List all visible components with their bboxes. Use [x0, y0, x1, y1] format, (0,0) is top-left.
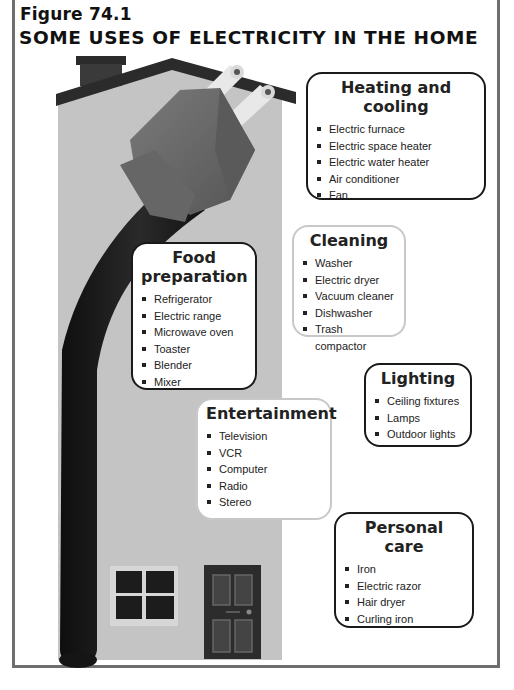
list-item: Hair dryer	[344, 594, 464, 611]
category-list: Ceiling fixtures Lamps Outdoor lights	[374, 393, 462, 443]
list-item: Radio	[206, 478, 322, 495]
list-item: Electric space heater	[316, 138, 476, 155]
list-item: Electric razor	[344, 578, 464, 595]
list-item: Refrigerator	[141, 291, 247, 308]
list-item: Fan	[316, 187, 476, 204]
list-item: Curling iron	[344, 611, 464, 628]
category-box-entertainment: Entertainment Television VCR Computer Ra…	[196, 398, 332, 520]
list-item: Vacuum cleaner	[302, 288, 396, 305]
category-list: Refrigerator Electric range Microwave ov…	[141, 291, 247, 390]
category-title: Heating andcooling	[316, 78, 476, 116]
list-item: Blender	[141, 357, 247, 374]
list-item: Electric water heater	[316, 154, 476, 171]
door-icon	[204, 565, 261, 659]
category-list: Washer Electric dryer Vacuum cleaner Dis…	[302, 255, 396, 354]
list-item: Electric furnace	[316, 121, 476, 138]
category-title: Entertainment	[206, 404, 322, 423]
category-title: Lighting	[374, 369, 462, 388]
category-box-cleaning: Cleaning Washer Electric dryer Vacuum cl…	[292, 225, 406, 337]
list-item: Lamps	[374, 410, 462, 427]
list-item: Washer	[302, 255, 396, 272]
list-item: Ceiling fixtures	[374, 393, 462, 410]
list-item: Air conditioner	[316, 171, 476, 188]
category-box-lighting: Lighting Ceiling fixtures Lamps Outdoor …	[364, 363, 472, 447]
category-box-heating-and-cooling: Heating andcooling Electric furnace Elec…	[306, 72, 486, 200]
list-item: Electric dryer	[302, 272, 396, 289]
list-item: Dishwasher	[302, 305, 396, 322]
list-item: Trash compactor	[302, 321, 396, 354]
list-item: Iron	[344, 561, 464, 578]
list-item: Outdoor lights	[374, 426, 462, 443]
list-item: Television	[206, 428, 322, 445]
list-item: Mixer	[141, 374, 247, 391]
list-item: Toaster	[141, 341, 247, 358]
list-item: Computer	[206, 461, 322, 478]
window-icon	[110, 566, 178, 626]
category-title: Cleaning	[302, 231, 396, 250]
category-list: Television VCR Computer Radio Stereo	[206, 428, 322, 511]
list-item: VCR	[206, 445, 322, 462]
list-item: Electric range	[141, 308, 247, 325]
category-box-food-preparation: Foodpreparation Refrigerator Electric ra…	[131, 242, 257, 390]
category-box-personal-care: Personalcare Iron Electric razor Hair dr…	[334, 512, 474, 628]
list-item: Stereo	[206, 494, 322, 511]
category-title: Foodpreparation	[141, 248, 247, 286]
category-list: Electric furnace Electric space heater E…	[316, 121, 476, 204]
list-item: Microwave oven	[141, 324, 247, 341]
category-list: Iron Electric razor Hair dryer Curling i…	[344, 561, 464, 627]
category-title: Personalcare	[344, 518, 464, 556]
